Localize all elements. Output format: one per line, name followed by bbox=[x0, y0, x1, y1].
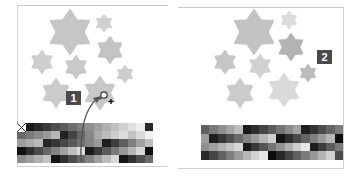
curved-arrow-icon bbox=[0, 0, 355, 179]
eyedropper-add-cursor-icon bbox=[99, 90, 119, 106]
step-1-badge: 1 bbox=[66, 91, 81, 105]
step-2-badge: 2 bbox=[317, 50, 332, 64]
